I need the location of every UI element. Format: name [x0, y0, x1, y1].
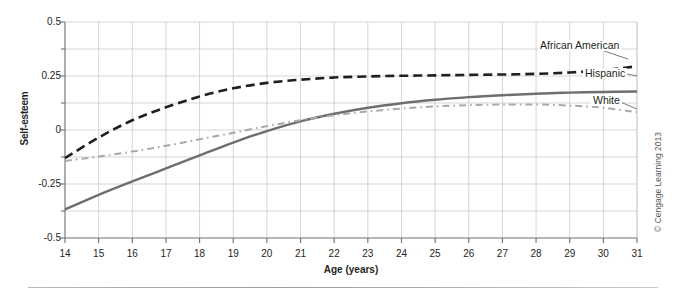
x-tick-label: 20	[252, 249, 282, 259]
x-tick-label: 30	[588, 249, 618, 259]
x-tick-label: 23	[353, 249, 383, 259]
x-tick-label: 26	[454, 249, 484, 259]
x-tick-label: 15	[84, 249, 114, 259]
series-label-african-american: African American	[538, 40, 621, 51]
copyright-credit: © Cengage Learning 2013	[653, 107, 663, 257]
series-line-african-american	[65, 66, 637, 158]
x-tick-label: 28	[521, 249, 551, 259]
x-tick-label: 16	[117, 249, 147, 259]
x-tick-label: 17	[151, 249, 181, 259]
series-label-hispanic: Hispanic	[583, 68, 627, 79]
x-tick-label: 18	[185, 249, 215, 259]
x-tick-label: 25	[420, 249, 450, 259]
bottom-divider	[28, 287, 658, 288]
x-tick-label: 19	[218, 249, 248, 259]
series-line-hispanic	[65, 92, 637, 210]
x-tick-label: 22	[319, 249, 349, 259]
x-tick-label: 27	[487, 249, 517, 259]
series-line-white	[65, 104, 637, 160]
self-esteem-by-age-chart: Self-esteem -0.5-0.2500.250.5 1415161718…	[0, 0, 685, 300]
series-label-leader	[604, 51, 628, 59]
x-tick-label: 31	[622, 249, 652, 259]
x-tick-label: 21	[286, 249, 316, 259]
x-axis-title: Age (years)	[65, 264, 637, 275]
x-tick-label: 24	[386, 249, 416, 259]
series-label-white: White	[591, 95, 622, 106]
x-tick-label: 14	[50, 249, 80, 259]
x-tick-label: 29	[555, 249, 585, 259]
